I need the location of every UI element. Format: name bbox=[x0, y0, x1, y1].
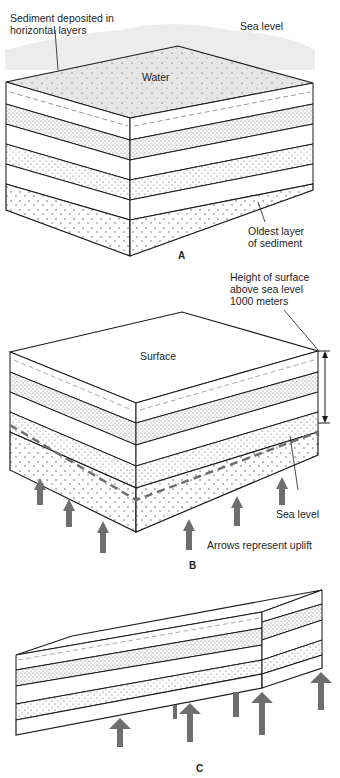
panel-b-letter: B bbox=[189, 560, 196, 571]
oldest-layer-label-line2: of sediment bbox=[248, 237, 302, 249]
sediment-label-line1: Sediment deposited in bbox=[10, 12, 114, 24]
panel-c-block bbox=[16, 590, 332, 747]
oldest-layer-label-line1: Oldest layer bbox=[248, 225, 304, 237]
uplift-diagram bbox=[0, 0, 340, 778]
height-label-line1: Height of surface bbox=[230, 271, 309, 283]
uplift-legend-label: Arrows represent uplift bbox=[207, 539, 312, 551]
panel-a-letter: A bbox=[178, 250, 185, 261]
panel-a-block bbox=[5, 24, 315, 256]
water-label: Water bbox=[142, 71, 170, 83]
height-label-line2: above sea level bbox=[230, 283, 303, 295]
sediment-label-line2: horizontal layers bbox=[10, 24, 86, 36]
surface-label: Surface bbox=[140, 350, 176, 362]
sea-level-label-b: Sea level bbox=[276, 508, 319, 520]
panel-c-letter: C bbox=[196, 763, 203, 774]
sea-level-label-a: Sea level bbox=[240, 20, 283, 32]
height-label-line3: 1000 meters bbox=[230, 295, 288, 307]
